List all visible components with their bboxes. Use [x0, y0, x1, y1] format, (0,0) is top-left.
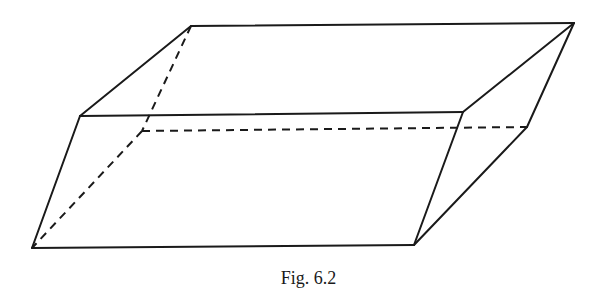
edge-top-back-right-to-top-front-right — [463, 23, 574, 112]
edge-bottom-front-left-to-bottom-front-right — [32, 245, 414, 248]
hidden-edge-bottom-back-left-to-bottom-back-right — [142, 127, 527, 131]
visible-edges — [32, 23, 574, 248]
figure-caption: Fig. 6.2 — [0, 268, 601, 289]
hidden-edge-bottom-back-left-to-bottom-front-left — [32, 131, 142, 248]
edge-top-front-left-to-top-front-right — [80, 112, 463, 116]
edge-top-front-right-to-bottom-front-right — [414, 112, 463, 245]
parallelepiped-diagram — [0, 0, 601, 297]
edge-bottom-front-right-to-bottom-back-right — [414, 127, 527, 245]
edge-top-front-left-to-bottom-front-left — [32, 116, 80, 248]
edge-top-back-right-to-bottom-back-right — [527, 23, 574, 127]
edge-top-back-left-to-top-front-left — [80, 26, 191, 116]
edge-top-back-left-to-top-back-right — [191, 23, 574, 26]
